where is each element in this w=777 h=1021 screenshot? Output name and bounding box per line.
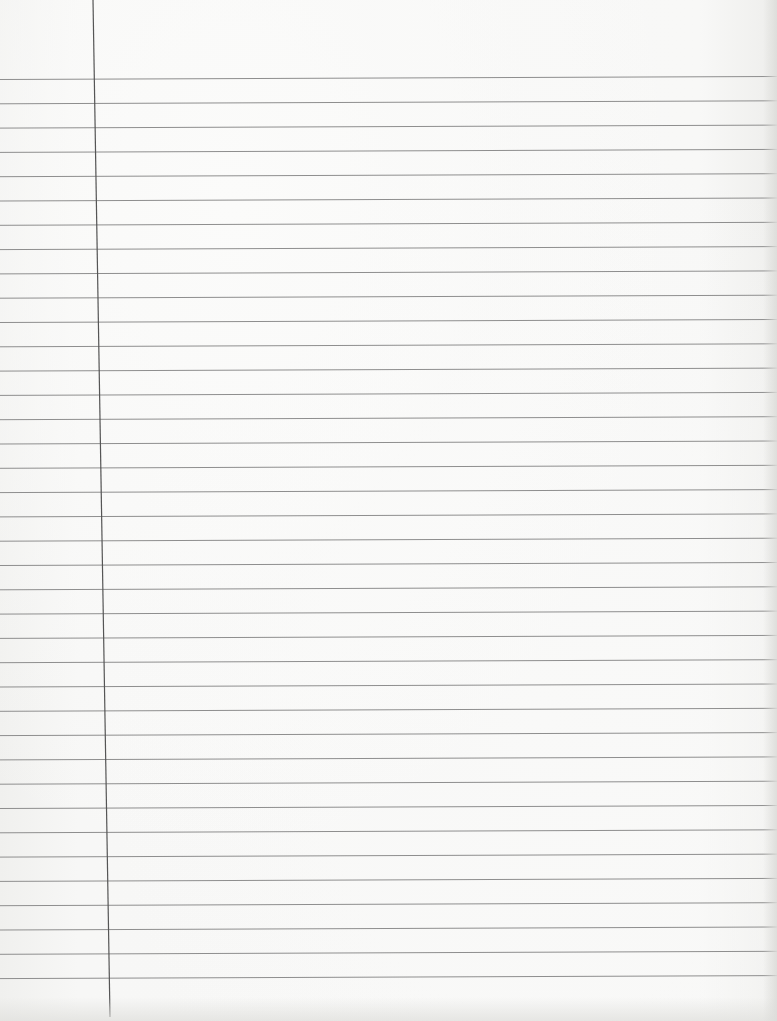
ruled-line xyxy=(0,708,777,711)
ruled-line xyxy=(0,878,777,881)
ruled-line xyxy=(0,271,777,274)
ruled-line xyxy=(0,951,777,954)
ruled-line xyxy=(0,125,777,128)
ruled-line xyxy=(0,490,777,493)
ruled-line xyxy=(0,660,777,663)
ruled-line xyxy=(0,198,777,201)
ruled-line xyxy=(0,927,777,930)
ruled-line xyxy=(0,830,777,833)
ruled-line xyxy=(0,320,777,323)
ruled-line xyxy=(0,563,777,566)
ruled-line xyxy=(0,684,777,687)
ruled-line xyxy=(0,587,777,590)
ruled-line xyxy=(0,441,777,444)
ruled-line xyxy=(0,174,777,177)
ruled-line xyxy=(0,781,777,784)
ruled-line xyxy=(0,247,777,250)
ruled-lines xyxy=(0,0,777,1021)
ruled-line xyxy=(0,101,777,104)
ruled-line xyxy=(0,976,777,979)
margin-line xyxy=(93,0,110,1017)
ruled-line xyxy=(0,417,777,420)
ruled-line xyxy=(0,344,777,347)
ruled-line xyxy=(0,611,777,614)
ruled-line xyxy=(0,733,777,736)
ruled-line xyxy=(0,392,777,395)
notebook-page xyxy=(0,0,777,1021)
ruled-line xyxy=(0,854,777,857)
ruled-line xyxy=(0,222,777,225)
ruled-line xyxy=(0,806,777,809)
ruled-line xyxy=(0,635,777,638)
ruled-line xyxy=(0,757,777,760)
ruled-line xyxy=(0,368,777,371)
ruled-line xyxy=(0,465,777,468)
right-edge-shadow xyxy=(763,0,777,1021)
ruled-line xyxy=(0,903,777,906)
ruled-line xyxy=(0,514,777,517)
ruled-line xyxy=(0,149,777,152)
ruled-line xyxy=(0,77,777,80)
ruled-line xyxy=(0,295,777,298)
bottom-edge-shadow xyxy=(0,997,777,1021)
ruled-line xyxy=(0,538,777,541)
